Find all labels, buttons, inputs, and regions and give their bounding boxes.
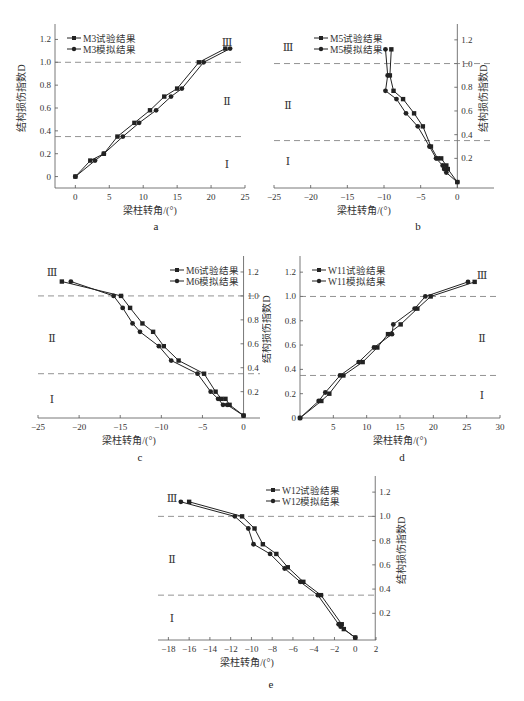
chart-panel-c: −25−20−15−10−500.20.40.60.81.01.2ⅢⅡⅠM6试验… — [0, 230, 262, 460]
svg-text:Ⅱ: Ⅱ — [168, 553, 175, 565]
svg-text:−16: −16 — [182, 644, 197, 654]
svg-text:W11试验结果: W11试验结果 — [328, 265, 386, 276]
chart-svg-b: −25−20−15−10−500.20.40.60.81.01.2ⅢⅡⅠM5试验… — [262, 0, 524, 230]
svg-text:1.0: 1.0 — [379, 511, 391, 521]
svg-text:10: 10 — [139, 192, 149, 202]
svg-text:0.6: 0.6 — [461, 106, 473, 116]
svg-text:0: 0 — [241, 422, 246, 432]
svg-text:−15: −15 — [340, 192, 355, 202]
svg-text:0.4: 0.4 — [248, 363, 260, 373]
svg-text:15: 15 — [173, 192, 183, 202]
chart-svg-d: 5101520253000.20.40.60.81.01.2ⅢⅡⅠW11试验结果… — [262, 230, 524, 460]
chart-panel-a: 051015202500.20.40.60.81.01.2ⅢⅡⅠM3试验结果M3… — [0, 0, 262, 230]
svg-text:0.6: 0.6 — [40, 103, 52, 113]
svg-text:W12试验结果: W12试验结果 — [282, 485, 340, 496]
svg-text:W12模拟结果: W12模拟结果 — [282, 496, 340, 507]
svg-text:−8: −8 — [267, 644, 277, 654]
svg-text:Ⅰ: Ⅰ — [50, 393, 54, 405]
panel-caption-d: d — [392, 451, 412, 463]
svg-text:M3试验结果: M3试验结果 — [83, 33, 136, 44]
svg-text:1.2: 1.2 — [461, 35, 472, 45]
panel-caption-a: a — [146, 220, 166, 232]
svg-text:Ⅰ: Ⅰ — [225, 158, 229, 170]
svg-text:1.0: 1.0 — [40, 57, 52, 67]
svg-text:M5模拟结果: M5模拟结果 — [330, 44, 383, 55]
svg-text:1.2: 1.2 — [40, 34, 51, 44]
svg-text:结构损伤指数D: 结构损伤指数D — [395, 516, 407, 583]
svg-text:0: 0 — [292, 413, 297, 423]
svg-text:25: 25 — [462, 422, 472, 432]
svg-text:0.8: 0.8 — [461, 82, 473, 92]
svg-text:0.6: 0.6 — [248, 339, 260, 349]
svg-text:Ⅱ: Ⅱ — [48, 332, 55, 344]
svg-text:30: 30 — [496, 422, 506, 432]
svg-text:1.0: 1.0 — [285, 291, 297, 301]
svg-text:结构损伤指数D: 结构损伤指数D — [15, 64, 27, 131]
svg-text:0.2: 0.2 — [285, 389, 296, 399]
svg-text:0: 0 — [73, 192, 78, 202]
svg-text:0.4: 0.4 — [461, 130, 473, 140]
svg-text:−10: −10 — [377, 192, 392, 202]
svg-text:1.2: 1.2 — [379, 487, 390, 497]
svg-text:10: 10 — [362, 422, 372, 432]
chart-svg-c: −25−20−15−10−500.20.40.60.81.01.2ⅢⅡⅠM6试验… — [0, 230, 262, 460]
svg-text:−18: −18 — [161, 644, 176, 654]
svg-text:Ⅰ: Ⅰ — [170, 612, 174, 624]
svg-text:0: 0 — [353, 644, 358, 654]
svg-text:0.8: 0.8 — [248, 315, 260, 325]
svg-text:−14: −14 — [203, 644, 218, 654]
svg-text:−6: −6 — [288, 644, 298, 654]
svg-text:5: 5 — [107, 192, 112, 202]
svg-text:Ⅱ: Ⅱ — [284, 99, 291, 111]
svg-text:20: 20 — [429, 422, 439, 432]
svg-text:M5试验结果: M5试验结果 — [330, 33, 383, 44]
svg-text:Ⅱ: Ⅱ — [478, 332, 485, 344]
svg-text:0.4: 0.4 — [379, 584, 391, 594]
svg-text:−5: −5 — [416, 192, 426, 202]
svg-text:20: 20 — [207, 192, 217, 202]
panel-caption-e: e — [261, 678, 281, 690]
svg-text:结构损伤指数D: 结构损伤指数D — [477, 64, 489, 131]
svg-text:Ⅲ: Ⅲ — [47, 266, 58, 278]
svg-text:−15: −15 — [113, 422, 128, 432]
svg-text:梁柱转角/(°): 梁柱转角/(°) — [373, 434, 426, 447]
panel-caption-c: c — [130, 451, 150, 463]
svg-text:Ⅰ: Ⅰ — [480, 389, 484, 401]
chart-panel-e: −18−16−14−12−10−8−6−4−2020.20.40.60.81.0… — [150, 460, 412, 701]
chart-svg-a: 051015202500.20.40.60.81.01.2ⅢⅡⅠM3试验结果M3… — [0, 0, 262, 230]
svg-text:Ⅱ: Ⅱ — [223, 95, 230, 107]
svg-text:0.2: 0.2 — [248, 387, 259, 397]
svg-text:15: 15 — [396, 422, 406, 432]
svg-text:−10: −10 — [244, 644, 259, 654]
svg-text:−10: −10 — [154, 422, 169, 432]
svg-text:1.2: 1.2 — [285, 267, 296, 277]
svg-text:0.4: 0.4 — [285, 364, 297, 374]
svg-text:梁柱转角/(°): 梁柱转角/(°) — [337, 204, 390, 217]
svg-text:1.2: 1.2 — [248, 267, 259, 277]
svg-text:−20: −20 — [304, 192, 319, 202]
svg-text:0: 0 — [455, 192, 460, 202]
svg-text:−20: −20 — [72, 422, 87, 432]
svg-text:−5: −5 — [198, 422, 208, 432]
svg-text:0.2: 0.2 — [379, 608, 390, 618]
svg-text:−2: −2 — [330, 644, 340, 654]
svg-text:0.2: 0.2 — [40, 149, 51, 159]
svg-text:结构损伤指数D: 结构损伤指数D — [262, 295, 272, 362]
svg-text:2: 2 — [374, 644, 379, 654]
svg-text:0.6: 0.6 — [285, 340, 297, 350]
svg-text:−12: −12 — [224, 644, 238, 654]
panel-caption-b: b — [408, 220, 428, 232]
svg-text:0.4: 0.4 — [40, 126, 52, 136]
svg-text:0.6: 0.6 — [379, 560, 391, 570]
svg-text:Ⅰ: Ⅰ — [286, 155, 290, 167]
svg-text:5: 5 — [331, 422, 336, 432]
svg-text:Ⅲ: Ⅲ — [283, 41, 294, 53]
chart-panel-b: −25−20−15−10−500.20.40.60.81.01.2ⅢⅡⅠM5试验… — [262, 0, 524, 230]
svg-text:25: 25 — [241, 192, 251, 202]
svg-text:0.8: 0.8 — [379, 536, 391, 546]
svg-text:−25: −25 — [267, 192, 282, 202]
svg-text:−4: −4 — [309, 644, 319, 654]
svg-text:梁柱转角/(°): 梁柱转角/(°) — [123, 204, 176, 217]
svg-text:0.2: 0.2 — [461, 153, 472, 163]
svg-text:Ⅲ: Ⅲ — [222, 36, 233, 48]
